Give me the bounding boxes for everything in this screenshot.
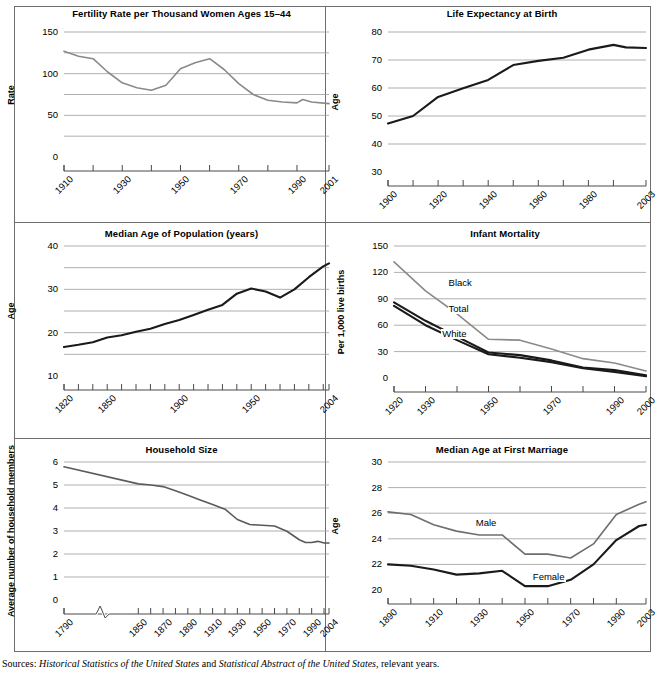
y-tick-label: 10 [18,371,58,381]
figure-border-top [14,6,651,7]
y-tick-label: 4 [18,503,58,513]
sources-suffix: , relevant years. [376,658,439,669]
chart-panel-median-age-first-marriage: Median Age at First Marriage202224262830… [328,444,650,650]
y-tick-label: 30 [18,284,58,294]
y-tick-label: 0 [18,152,58,162]
y-axis-title: Age [330,517,340,534]
y-tick-label: 30 [342,167,382,177]
y-tick-label: 26 [342,508,382,518]
plot-area-median-age-first-marriage [328,444,650,650]
y-tick-label: 150 [18,27,58,37]
y-tick-label: 50 [342,111,382,121]
y-tick-label: 1 [18,572,58,582]
figure-border-right [650,6,651,652]
y-tick-label: 28 [342,483,382,493]
y-tick-label: 60 [342,83,382,93]
y-axis-title: Per 1,000 live births [336,270,346,355]
sources-prefix: Sources: [2,658,39,669]
y-tick-label: 90 [348,294,388,304]
chart-panel-life-expectancy: Life Expectancy at Birth3040506070801900… [328,8,650,220]
data-series-line [64,263,329,347]
y-axis-title: Age [330,93,340,110]
panel-divider-row-1 [14,222,651,223]
data-series-line [388,45,646,124]
y-axis-title: Rate [6,85,16,105]
series-label-male: Male [475,518,498,528]
sources-title-1: Historical Statistics of the United Stat… [39,658,199,669]
y-tick-label: 50 [18,110,58,120]
y-axis-title: Average number of household members [6,445,16,617]
sources-conjunction: and [199,658,218,669]
y-tick-label: 5 [18,480,58,490]
y-tick-label: 40 [342,139,382,149]
y-tick-label: 0 [348,373,388,383]
chart-panel-household-size: Household Size01234561790185018701890191… [18,444,324,650]
series-label-female: Female [532,572,566,582]
chart-panel-fertility-rate: Fertility Rate per Thousand Women Ages 1… [18,8,324,220]
panel-divider-row-2 [14,438,651,439]
y-tick-label: 30 [348,347,388,357]
chart-panel-median-age-population: Median Age of Population (years)10203040… [18,228,324,436]
y-tick-label: 30 [342,457,382,467]
data-series-line [394,302,646,375]
y-tick-label: 60 [348,320,388,330]
sources-note: Sources: Historical Statistics of the Un… [2,657,652,671]
y-tick-label: 70 [342,55,382,65]
y-tick-label: 20 [342,585,382,595]
y-tick-label: 150 [348,241,388,251]
y-axis-title: Age [6,302,16,319]
data-series-line [64,467,329,543]
series-label-black: Black [448,278,473,288]
series-label-total: Total [448,304,470,314]
y-tick-label: 0 [18,595,58,605]
y-tick-label: 22 [342,559,382,569]
y-tick-label: 20 [18,328,58,338]
y-tick-label: 6 [18,457,58,467]
y-tick-label: 100 [18,69,58,79]
y-tick-label: 24 [342,534,382,544]
sources-title-2: Statistical Abstract of the United State… [219,658,376,669]
data-series-line [394,306,646,376]
y-tick-label: 40 [18,241,58,251]
y-tick-label: 120 [348,267,388,277]
y-tick-label: 80 [342,27,382,37]
data-series-line [64,51,329,104]
figure-border-bottom [14,651,651,652]
data-series-line [388,525,646,586]
chart-panel-infant-mortality: Infant Mortality030609012015019201930195… [328,228,650,436]
y-tick-label: 2 [18,549,58,559]
y-tick-label: 3 [18,526,58,536]
series-label-white: White [441,329,467,339]
